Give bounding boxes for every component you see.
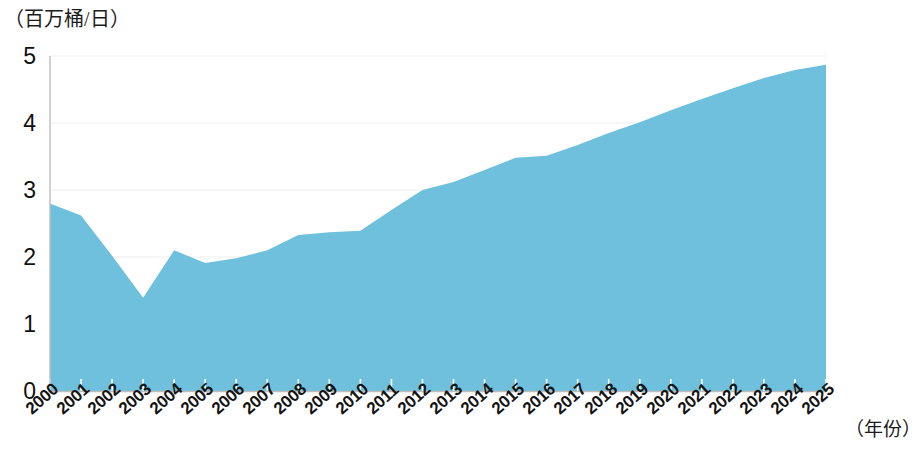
area-series-fill — [50, 65, 826, 391]
area-chart: （百万桶/日） 0 1 2 3 4 5 20002001200220032004… — [0, 0, 923, 453]
x-axis-title: （年份） — [845, 414, 921, 441]
